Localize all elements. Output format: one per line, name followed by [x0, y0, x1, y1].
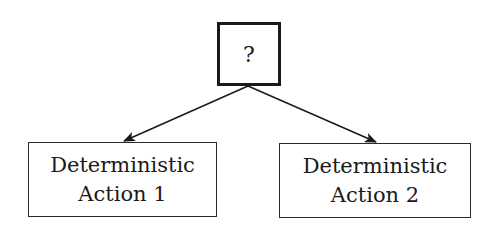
action-1-line-1: Deterministic: [50, 151, 195, 180]
action-1-line-2: Action 1: [78, 180, 166, 209]
action-2-line-1: Deterministic: [303, 152, 448, 181]
edge-root-to-action-1: [124, 86, 248, 141]
edge-root-to-action-2: [248, 86, 376, 142]
action-2-line-2: Action 2: [331, 181, 419, 210]
selector-label: ?: [243, 42, 255, 67]
selector-node: ?: [217, 22, 281, 86]
action-node-1: Deterministic Action 1: [28, 142, 217, 217]
action-node-2: Deterministic Action 2: [279, 143, 471, 218]
